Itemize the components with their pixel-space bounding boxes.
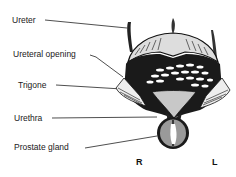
label-ureteral-opening: Ureteral opening — [13, 50, 76, 59]
prostate-gland-leader-line — [85, 136, 157, 148]
urethra-leader-line — [52, 117, 157, 118]
orientation-left-marker: L — [212, 158, 218, 167]
orientation-right-marker: R — [136, 158, 143, 167]
ureteral-opening-leader-line — [90, 55, 123, 77]
apex-nub — [172, 18, 175, 34]
left-ureter-tube — [127, 22, 133, 52]
label-prostate-gland: Prostate gland — [14, 143, 69, 152]
label-trigone: Trigone — [18, 81, 47, 90]
urethra-lumen — [170, 124, 176, 144]
ureter-leader-line — [45, 20, 127, 28]
label-ureter: Ureter — [12, 16, 36, 25]
trigone-leader-line — [56, 85, 122, 89]
label-urethra: Urethra — [14, 114, 42, 123]
